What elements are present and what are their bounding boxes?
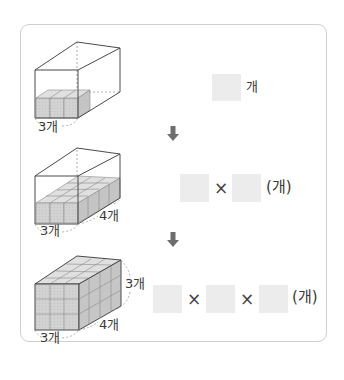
answer-box-step-3-b[interactable] [206,285,235,313]
down-arrow-icon [167,232,179,248]
cuboid-illustrations [0,0,344,380]
unit-step-3: (개) [292,290,318,305]
height-label-step-3: 3개 [125,277,145,290]
width-label-step-3: 3개 [40,331,60,344]
depth-label-step-2: 4개 [99,209,119,222]
times-operator-step-3-b: × [240,291,254,308]
depth-label-step-3: 4개 [99,318,119,331]
answer-box-step-3-a[interactable] [153,285,182,313]
width-label-step-2: 3개 [40,224,60,237]
unit-step-2: (개) [266,180,292,195]
cuboid-step-1 [35,42,120,126]
times-operator-step-2: × [214,180,228,197]
unit-step-1: 개 [246,80,258,93]
answer-box-step-2-b[interactable] [232,174,261,202]
answer-box-step-3-c[interactable] [259,285,288,313]
answer-box-step-1[interactable] [212,74,241,101]
width-label-step-1: 3개 [38,120,58,133]
answer-box-step-2-a[interactable] [180,174,209,202]
times-operator-step-3-a: × [187,291,201,308]
down-arrow-icon [167,126,179,142]
